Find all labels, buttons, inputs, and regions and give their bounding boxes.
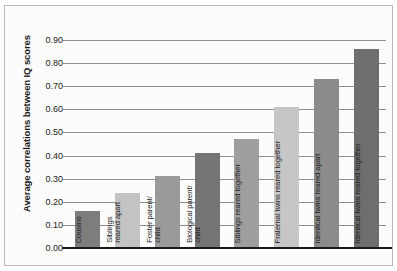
bar-category-label: Identical twins reared together <box>353 53 361 243</box>
x-axis-baseline <box>62 247 392 249</box>
chart-figure: Average correlations between IQ scores 0… <box>0 0 397 271</box>
bar: Fraternal twins reared together <box>274 107 299 248</box>
bar-category-label: Identical twins reared apart <box>313 53 321 243</box>
bar-category-label: Siblings reared apart <box>106 53 123 243</box>
bar-category-label: Foster parent/ child <box>146 53 163 243</box>
y-tick-label: 0.20 <box>45 197 63 207</box>
y-tick-label: 0.50 <box>45 127 63 137</box>
bar-category-label: Siblings reared together <box>234 53 242 243</box>
bar-category-label: Biological parent/ child <box>186 53 203 243</box>
bar-category-label: Cousins <box>75 53 83 243</box>
bar: Cousins <box>75 211 100 248</box>
bars-group: CousinsSiblings reared apartFoster paren… <box>68 26 386 248</box>
y-tick-label: 0.60 <box>45 104 63 114</box>
bar: Foster parent/ child <box>155 176 180 248</box>
y-tick-label: 0.00 <box>45 243 63 253</box>
bar: Identical twins reared together <box>354 49 379 248</box>
y-axis-title: Average correlations between IQ scores <box>21 24 32 224</box>
y-tick-label: 0.70 <box>45 81 63 91</box>
bar-category-label: Fraternal twins reared together <box>274 53 282 243</box>
y-tick-label: 0.80 <box>45 58 63 68</box>
y-tick-label: 0.90 <box>45 35 63 45</box>
y-tick-label: 0.30 <box>45 174 63 184</box>
y-tick-label: 0.10 <box>45 220 63 230</box>
bar: Siblings reared apart <box>115 193 140 248</box>
bar: Biological parent/ child <box>195 153 220 248</box>
bar: Identical twins reared apart <box>314 79 339 248</box>
y-tick-label: 0.40 <box>45 151 63 161</box>
bar: Siblings reared together <box>234 139 259 248</box>
plot-area: 0.000.100.200.300.400.500.600.700.800.90… <box>68 26 386 248</box>
